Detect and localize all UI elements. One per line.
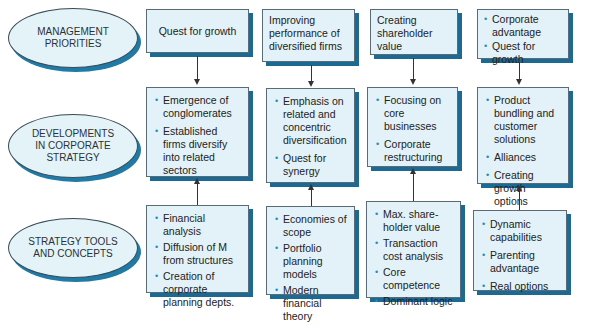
list-item: Quest for synergy — [275, 152, 348, 178]
connector-line — [519, 62, 520, 80]
arrow-down-icon — [516, 79, 522, 85]
row-label-management-priorities: MANAGEMENTPRIORITIES — [8, 8, 138, 68]
priority-text: Improving performance of diversified fir… — [269, 14, 342, 52]
list-item: Creating growth options — [486, 169, 562, 208]
list-item: Creation of corporate planning depts. — [155, 270, 242, 309]
row-label-developments: DEVELOPMENTSIN CORPORATESTRATEGY — [8, 114, 138, 178]
list-item: Dynamic capabilities — [482, 218, 560, 244]
priority-box-1: Quest for growth — [146, 9, 249, 53]
arrow-down-icon — [410, 79, 416, 85]
priority-box-3: Creating shareholder value — [370, 9, 458, 55]
list-item: Parenting advantage — [482, 249, 560, 275]
list-item: Established firms diversify into related… — [155, 125, 242, 177]
row-label-line: STRATEGY — [32, 152, 114, 164]
connector-line — [413, 174, 414, 201]
connector-line — [197, 56, 198, 80]
row-label-line: DEVELOPMENTS — [32, 128, 114, 140]
priority-text: Creating shareholder value — [377, 14, 432, 52]
development-box-1: Emergence of conglomerates Established f… — [146, 87, 249, 177]
tools-box-3: Max. share-holder value Transaction cost… — [366, 201, 461, 298]
list-item: Modern financial theory — [275, 284, 348, 323]
list-item: Quest for growth — [484, 40, 564, 66]
arrow-down-icon — [308, 81, 314, 87]
development-box-2: Emphasis on related and concentric diver… — [266, 88, 355, 183]
row-label-line: STRATEGY TOOLS — [28, 236, 117, 248]
priority-box-4: Corporate advantage Quest for growth — [477, 9, 569, 59]
list-item: Transaction cost analysis — [375, 237, 454, 263]
list-item: Economies of scope — [275, 213, 348, 239]
list-item: Focusing on core businesses — [376, 94, 451, 133]
list-item: Core competence — [375, 266, 454, 292]
row-label-line: AND CONCEPTS — [28, 248, 117, 260]
priority-text: Quest for growth — [159, 25, 237, 38]
connector-line — [197, 184, 198, 205]
development-list: Emergence of conglomerates Established f… — [147, 88, 248, 183]
row-label-line: PRIORITIES — [37, 38, 109, 50]
row-label-strategy-tools: STRATEGY TOOLSAND CONCEPTS — [8, 218, 138, 278]
list-item: Corporate restructuring — [376, 138, 451, 164]
arrow-down-icon — [194, 79, 200, 85]
development-box-4: Product bundling and customer solutions … — [477, 87, 569, 184]
list-item: Corporate advantage — [484, 13, 564, 39]
tools-list: Dynamic capabilities Parenting advantage… — [474, 211, 566, 302]
row-label-line: IN CORPORATE — [32, 140, 114, 152]
tools-box-1: Financial analysis Diffusion of M from s… — [146, 205, 249, 293]
list-item: Alliances — [486, 151, 562, 164]
connector-line — [311, 65, 312, 82]
development-box-3: Focusing on core businesses Corporate re… — [367, 87, 458, 167]
list-item: Dominant logic — [375, 295, 454, 308]
row-label-line: MANAGEMENT — [37, 26, 109, 38]
development-list: Focusing on core businesses Corporate re… — [368, 88, 457, 170]
development-list: Product bundling and customer solutions … — [478, 88, 568, 214]
tools-list: Max. share-holder value Transaction cost… — [367, 202, 460, 317]
priority-box-2: Improving performance of diversified fir… — [262, 9, 355, 62]
tools-list: Economies of scope Portfolio planning mo… — [267, 207, 354, 326]
tools-box-2: Economies of scope Portfolio planning mo… — [266, 206, 355, 295]
list-item: Emphasis on related and concentric diver… — [275, 95, 348, 147]
list-item: Financial analysis — [155, 212, 242, 238]
development-list: Emphasis on related and concentric diver… — [267, 89, 354, 184]
connector-line — [413, 58, 414, 80]
list-item: Diffusion of M from structures — [155, 241, 242, 267]
priority-list: Corporate advantage Quest for growth — [478, 10, 568, 72]
connector-line — [311, 190, 312, 206]
list-item: Product bundling and customer solutions — [486, 94, 562, 146]
list-item: Emergence of conglomerates — [155, 94, 242, 120]
connector-line — [519, 191, 520, 210]
list-item: Max. share-holder value — [375, 208, 454, 234]
tools-list: Financial analysis Diffusion of M from s… — [147, 206, 248, 318]
tools-box-4: Dynamic capabilities Parenting advantage… — [473, 210, 567, 291]
list-item: Real options — [482, 280, 560, 293]
list-item: Portfolio planning models — [275, 242, 348, 281]
